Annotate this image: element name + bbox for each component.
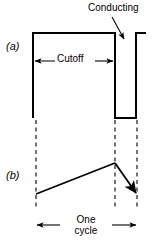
conducting-leader-line: [112, 17, 124, 39]
conducting-label: Conducting: [88, 3, 139, 14]
waveform-a-trace: [33, 33, 146, 118]
panel-label-a: (a): [6, 41, 19, 53]
waveform-figure: (a) (b) Conducting Cutoff One cycle: [0, 0, 160, 250]
one-cycle-label-line1: One: [77, 214, 96, 225]
cutoff-label: Cutoff: [55, 54, 86, 65]
one-cycle-label: One cycle: [60, 215, 112, 236]
waveform-b-ramp: [36, 163, 115, 194]
one-cycle-label-line2: cycle: [60, 226, 112, 237]
panel-label-b: (b): [6, 170, 19, 182]
figure-canvas: [0, 0, 160, 250]
waveform-b-flyback: [115, 163, 136, 193]
